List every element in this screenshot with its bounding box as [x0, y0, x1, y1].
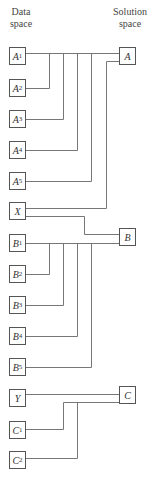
box-subscript: 4: [19, 146, 23, 154]
data-box-x: X: [9, 202, 26, 220]
box-letter: X: [14, 206, 20, 217]
data-box-c1: C1: [9, 421, 26, 439]
box-letter: A: [124, 51, 130, 62]
box-letter: B: [124, 232, 130, 243]
box-letter: Y: [15, 393, 21, 404]
solution-box-c: C: [119, 386, 136, 404]
data-box-b2: B2: [9, 265, 26, 283]
box-subscript: 1: [19, 426, 23, 434]
box-subscript: 4: [19, 332, 23, 340]
box-subscript: 5: [19, 177, 23, 185]
data-box-a5: A5: [9, 172, 26, 190]
data-box-a3: A3: [9, 110, 26, 128]
box-subscript: 1: [19, 52, 23, 60]
box-subscript: 3: [19, 301, 23, 309]
data-box-b5: B5: [9, 358, 26, 376]
data-box-b3: B3: [9, 296, 26, 314]
data-box-a1: A1: [9, 47, 26, 65]
box-subscript: 2: [19, 84, 23, 92]
box-letter: C: [124, 390, 131, 401]
solution-box-a: A: [119, 47, 136, 65]
solution-box-b: B: [119, 228, 136, 246]
box-subscript: 3: [19, 115, 23, 123]
box-subscript: 2: [19, 270, 23, 278]
data-box-b4: B4: [9, 327, 26, 345]
box-subscript: 5: [19, 363, 23, 371]
data-box-b1: B1: [9, 234, 26, 252]
box-letter: C: [12, 455, 19, 466]
box-letter: C: [12, 425, 19, 436]
data-box-a4: A4: [9, 141, 26, 159]
data-box-a2: A2: [9, 79, 26, 97]
box-subscript: 2: [19, 456, 23, 464]
data-box-y: Y: [9, 389, 26, 407]
data-box-c2: C2: [9, 451, 26, 469]
box-subscript: 1: [19, 239, 23, 247]
